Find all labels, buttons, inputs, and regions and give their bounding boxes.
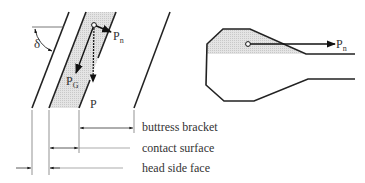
force-origin-point bbox=[92, 23, 97, 28]
dimension-lines: buttress bracket contact surface head si… bbox=[16, 110, 218, 175]
right-figure: Pn bbox=[206, 29, 355, 101]
label-buttress-bracket: buttress bracket bbox=[142, 120, 218, 134]
force-pn-label: Pn bbox=[113, 29, 124, 45]
angle-delta-label: δ bbox=[34, 36, 40, 51]
force-pn-right-label: Pn bbox=[336, 37, 347, 53]
label-head-side-face: head side face bbox=[142, 161, 210, 175]
diagram-canvas: δ Pn PG P buttress bracket contact surfa… bbox=[0, 0, 365, 183]
shaded-head-region bbox=[206, 29, 306, 54]
force-origin-right bbox=[246, 42, 251, 47]
force-pn-sub: n bbox=[120, 36, 124, 45]
force-pg-sub: G bbox=[73, 81, 79, 90]
shaded-contact-band bbox=[49, 12, 116, 108]
force-pn-right-sub: n bbox=[343, 44, 347, 53]
force-p-label: P bbox=[90, 97, 97, 111]
diagram-svg: δ Pn PG P buttress bracket contact surfa… bbox=[0, 0, 365, 183]
buttress-bracket-edge bbox=[134, 12, 170, 108]
label-contact-surface: contact surface bbox=[142, 141, 214, 155]
left-figure: δ Pn PG P bbox=[32, 12, 170, 111]
